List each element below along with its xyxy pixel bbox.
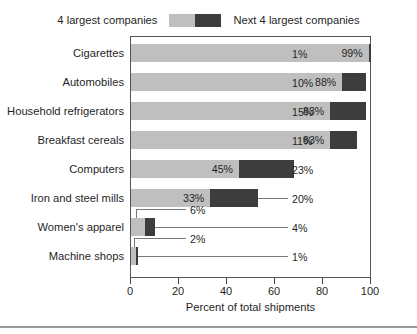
chart-container: 4 largest companies Next 4 largest compa… — [0, 0, 417, 334]
bar-segment-light — [131, 218, 145, 236]
category-label: Iron and steel mills — [31, 192, 124, 204]
bar-row: 88% — [131, 73, 371, 91]
callout-line-vertical — [134, 238, 135, 247]
bar-value-label-light: 33% — [183, 192, 204, 204]
x-axis-tick — [226, 278, 227, 284]
bar-value-label-dark: 20% — [292, 193, 313, 205]
bar-value-label-dark: 23% — [292, 164, 313, 176]
x-axis-tick-label: 0 — [127, 285, 133, 297]
x-axis-tick-labels: 020406080100 — [0, 285, 417, 299]
leader-line — [155, 227, 288, 228]
bar-value-label-light: 88% — [315, 76, 336, 88]
x-axis-tick-label: 80 — [316, 285, 328, 297]
legend-swatch-dark — [195, 14, 221, 27]
bar-value-label-dark: 10% — [292, 77, 313, 89]
bar-row: 99% — [131, 44, 371, 62]
category-label: Computers — [69, 163, 124, 175]
x-axis-title: Percent of total shipments — [130, 301, 371, 313]
x-axis-tick — [370, 278, 371, 284]
callout-line-horizontal — [136, 209, 186, 210]
legend-swatch-light — [169, 14, 195, 27]
bar-segment-dark — [330, 102, 366, 120]
bar-value-label-dark: 1% — [292, 251, 307, 263]
category-label: Household refrigerators — [7, 105, 124, 117]
bar-row: 33% — [131, 189, 371, 207]
x-axis-tick — [274, 278, 275, 284]
x-axis-tick — [130, 278, 131, 284]
bar-value-label-dark: 15% — [292, 106, 313, 118]
bar-segment-light — [131, 44, 369, 62]
legend-label-4-largest: 4 largest companies — [57, 14, 157, 26]
leader-line — [138, 256, 288, 257]
bar-value-label-light: 45% — [212, 163, 233, 175]
category-label: Women's apparel — [37, 221, 124, 233]
bar-row: 45% — [131, 160, 371, 178]
category-axis-labels: CigarettesAutomobilesHousehold refrigera… — [0, 36, 128, 278]
callout-line-vertical — [136, 209, 137, 218]
x-axis-tick-label: 100 — [361, 285, 379, 297]
callout-line-horizontal — [134, 238, 186, 239]
x-axis-tick-label: 20 — [172, 285, 184, 297]
category-label: Breakfast cereals — [38, 134, 124, 146]
category-label: Cigarettes — [73, 47, 124, 59]
bar-value-label-dark: 11% — [292, 135, 312, 147]
bar-value-label-light: 2% — [190, 233, 205, 245]
legend-swatches — [169, 14, 221, 27]
bar-segment-dark — [239, 160, 294, 178]
bar-value-label-dark: 4% — [292, 222, 307, 234]
bar-segment-dark — [342, 73, 366, 91]
x-axis-tick — [322, 278, 323, 284]
bars-layer: 99%88%83%83%45%33% — [131, 37, 371, 277]
footer-rule — [0, 326, 417, 328]
bar-value-label-light: 6% — [190, 204, 205, 216]
leader-line — [258, 198, 288, 199]
bar-segment-dark — [369, 44, 371, 62]
bar-segment-dark — [330, 131, 356, 149]
chart-legend: 4 largest companies Next 4 largest compa… — [0, 10, 417, 30]
bar-value-label-light: 99% — [341, 47, 362, 59]
x-axis-tick-label: 40 — [220, 285, 232, 297]
bar-row: 83% — [131, 102, 371, 120]
category-label: Automobiles — [62, 76, 124, 88]
x-axis-tick — [178, 278, 179, 284]
x-axis-ticks — [130, 278, 371, 285]
bar-value-label-dark: 1% — [292, 48, 307, 60]
category-label: Machine shops — [49, 250, 124, 262]
bar-segment-dark — [145, 218, 155, 236]
bar-row: 83% — [131, 131, 371, 149]
legend-label-next-4-largest: Next 4 largest companies — [233, 14, 359, 26]
x-axis-tick-label: 60 — [268, 285, 280, 297]
bar-segment-dark — [210, 189, 258, 207]
